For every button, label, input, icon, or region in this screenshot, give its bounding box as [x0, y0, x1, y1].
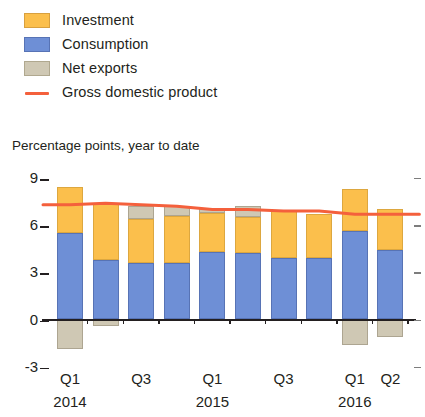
- bar-segment-investment: [199, 213, 225, 252]
- bar-column: [306, 0, 332, 417]
- bar-segment-investment: [164, 216, 190, 263]
- bar-segment-consumption: [377, 250, 403, 319]
- bar-segment-consumption: [271, 258, 297, 319]
- chart-figure: Investment Consumption Net exports Gross…: [0, 0, 425, 417]
- bar-segment-net-exports: [57, 320, 83, 350]
- x-axis-year-label: 2016: [327, 394, 383, 409]
- x-tick-label: Q3: [262, 371, 306, 386]
- x-tick-mark: [265, 320, 266, 324]
- right-tick-mark: [414, 320, 421, 321]
- bar-segment-net-exports: [235, 206, 261, 217]
- right-tick-mark: [414, 367, 421, 368]
- y-tick-label: 9: [8, 170, 38, 185]
- bar-segment-investment: [93, 203, 119, 260]
- x-tick-label: Q2: [368, 371, 412, 386]
- x-tick-label: Q3: [119, 371, 163, 386]
- bar-segment-consumption: [235, 253, 261, 319]
- bar-segment-investment: [342, 189, 368, 231]
- x-tick-mark: [372, 320, 373, 324]
- bar-segment-consumption: [57, 233, 83, 319]
- bar-segment-consumption: [93, 260, 119, 320]
- right-tick-mark: [414, 225, 421, 226]
- y-tick-mark: [40, 368, 49, 370]
- bar-segment-consumption: [164, 263, 190, 320]
- bar-column: [164, 0, 190, 417]
- bar-segment-net-exports: [164, 206, 190, 215]
- right-tick-mark: [414, 178, 421, 179]
- x-tick-mark: [301, 320, 302, 324]
- bar-segment-consumption: [306, 258, 332, 319]
- bar-segment-consumption: [199, 252, 225, 320]
- x-tick-mark: [229, 320, 230, 324]
- x-tick-label: Q1: [190, 371, 234, 386]
- x-tick-label: Q1: [48, 371, 92, 386]
- x-axis-year-label: 2014: [42, 394, 98, 409]
- y-tick-label: -3: [8, 359, 38, 374]
- bar-column: [235, 0, 261, 417]
- bar-segment-investment: [235, 217, 261, 253]
- bar-column: [57, 0, 83, 417]
- bar-segment-net-exports: [199, 208, 225, 213]
- right-tick-mark: [414, 272, 421, 273]
- y-tick-label: 6: [8, 217, 38, 232]
- x-tick-mark: [194, 320, 195, 324]
- plot-area: 9630-3 Q1Q3Q1Q3Q1Q2201420152016: [0, 0, 425, 417]
- bar-segment-net-exports: [342, 320, 368, 345]
- bar-segment-net-exports: [377, 320, 403, 337]
- bar-segment-investment: [57, 187, 83, 233]
- bar-segment-net-exports: [128, 206, 154, 219]
- bar-segment-investment: [306, 214, 332, 258]
- x-tick-mark: [123, 320, 124, 324]
- bar-segment-consumption: [342, 231, 368, 319]
- y-tick-label: 0: [8, 312, 38, 327]
- bar-column: [377, 0, 403, 417]
- x-axis-year-label: 2015: [184, 394, 240, 409]
- bar-segment-investment: [128, 219, 154, 263]
- bar-column: [128, 0, 154, 417]
- x-tick-mark: [336, 320, 337, 324]
- y-tick-mark: [40, 273, 49, 275]
- bar-column: [342, 0, 368, 417]
- y-tick-mark: [40, 226, 49, 228]
- x-tick-mark: [158, 320, 159, 324]
- bar-column: [271, 0, 297, 417]
- x-tick-mark: [87, 320, 88, 324]
- bar-column: [93, 0, 119, 417]
- y-tick-mark: [40, 179, 49, 181]
- x-tick-mark: [407, 320, 408, 324]
- bar-segment-consumption: [128, 263, 154, 320]
- bar-segment-investment: [377, 209, 403, 250]
- bar-column: [199, 0, 225, 417]
- bar-segment-investment: [271, 211, 297, 258]
- y-tick-label: 3: [8, 264, 38, 279]
